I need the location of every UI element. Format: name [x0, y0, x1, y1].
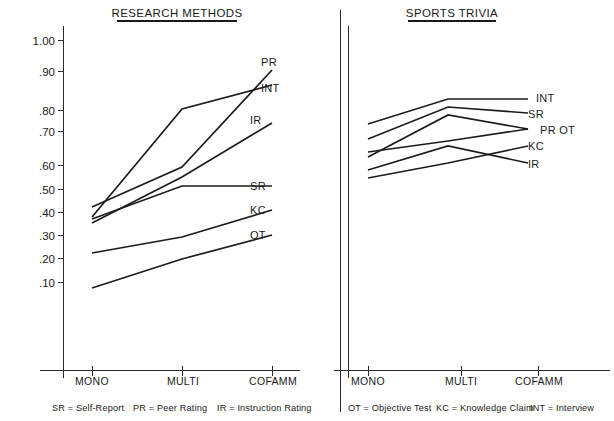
y-tick-label-0.40: .40: [39, 207, 55, 219]
y-tick-label-1.00: 1.00: [33, 35, 55, 47]
footnote-pr: PR = Peer Rating: [133, 403, 207, 413]
figure-container: RESEARCH METHODS 1.00: [0, 0, 614, 421]
right-series-lines: [368, 99, 528, 178]
series-label-kc: KC: [250, 204, 266, 216]
series-line-ir-right: [368, 146, 528, 170]
left-panel: RESEARCH METHODS 1.00: [33, 7, 300, 387]
y-tick-label-0.10: .10: [39, 277, 55, 289]
series-line-ir: [92, 123, 272, 223]
right-panel: SPORTS TRIVIA MONO MULTI COFAMM: [334, 7, 610, 387]
series-label-int: INT: [261, 82, 280, 94]
y-tick-label-0.60: .60: [39, 160, 55, 172]
x-tick-label-multi-right: MULTI: [445, 375, 477, 387]
series-line-kc: [92, 210, 272, 253]
left-series-lines: [92, 70, 272, 288]
right-x-tick-labels: MONO MULTI COFAMM: [351, 375, 563, 387]
series-label-ir-right: IR: [528, 158, 540, 170]
footnote-ot: OT = Objective Test: [348, 403, 432, 413]
left-panel-title: RESEARCH METHODS: [112, 7, 243, 19]
footnote-sr: SR = Self-Report: [52, 403, 124, 413]
series-label-kc-right: KC: [528, 140, 544, 152]
right-series-labels: INT SR PR OT KC IR: [528, 92, 575, 170]
series-label-sr: SR: [250, 180, 266, 192]
x-tick-label-mono-right: MONO: [351, 375, 385, 387]
series-line-pr-right: [368, 129, 528, 152]
right-panel-title: SPORTS TRIVIA: [406, 7, 498, 19]
series-label-pr-ot-right: PR OT: [540, 124, 575, 136]
series-label-ir: IR: [250, 114, 262, 126]
footnote-ir: IR = Instruction Rating: [217, 403, 312, 413]
x-tick-label-mono: MONO: [75, 375, 109, 387]
x-tick-label-cofamm: COFAMM: [249, 375, 297, 387]
footnote-int: INT = Interview: [530, 403, 594, 413]
series-label-pr: PR: [261, 56, 277, 68]
left-series-labels: PR INT IR SR KC OT: [250, 56, 280, 241]
two-panel-line-chart: RESEARCH METHODS 1.00: [0, 0, 614, 421]
x-tick-label-multi: MULTI: [167, 375, 199, 387]
series-line-sr-right: [368, 107, 528, 139]
footnote-row: SR = Self-Report PR = Peer Rating IR = I…: [52, 403, 594, 413]
left-y-tick-labels: 1.00 .90 .80 .70 .60 .50 .40 .30 .20 .10: [33, 35, 55, 289]
series-line-sr: [92, 186, 272, 219]
x-tick-label-cofamm-right: COFAMM: [515, 375, 563, 387]
series-label-int-right: INT: [536, 92, 555, 104]
footnote-kc: KC = Knowledge Claim: [436, 403, 534, 413]
series-label-ot: OT: [250, 229, 266, 241]
y-tick-label-0.50: .50: [39, 184, 55, 196]
y-tick-label-0.20: .20: [39, 253, 55, 265]
series-line-int: [92, 85, 272, 217]
y-tick-label-0.30: .30: [39, 230, 55, 242]
series-line-ot: [92, 235, 272, 288]
series-label-sr-right: SR: [528, 108, 544, 120]
y-tick-label-0.70: .70: [39, 126, 55, 138]
y-tick-label-0.90: .90: [39, 66, 55, 78]
y-tick-label-0.80: .80: [39, 105, 55, 117]
left-x-tick-labels: MONO MULTI COFAMM: [75, 375, 297, 387]
